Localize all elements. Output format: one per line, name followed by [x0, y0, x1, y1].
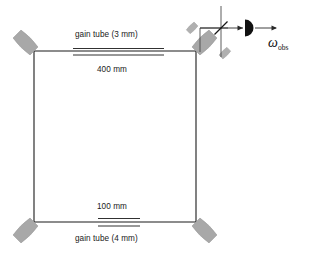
omega-symbol: ω	[268, 35, 278, 50]
mirror-body	[186, 22, 198, 34]
omega-subscript: obs	[278, 43, 289, 52]
gain-tube-top-label: gain tube (3 mm)	[75, 31, 138, 39]
mirror-body	[191, 217, 217, 243]
beam-arrowhead-to-detector	[238, 26, 244, 31]
mirror-top-left	[12, 29, 38, 55]
output-signal-arrowhead	[272, 26, 278, 31]
fold-mirror-upper-left	[186, 22, 198, 34]
mirror-top-right	[191, 29, 217, 55]
gain-tube-bottom-label: gain tube (4 mm)	[75, 235, 138, 243]
mirror-bottom-right	[191, 217, 217, 243]
detection-optics	[186, 6, 277, 59]
bottom-arm-length-label: 100 mm	[97, 203, 127, 211]
mirror-body	[12, 217, 38, 243]
ring-laser-diagram	[0, 0, 309, 261]
corner-mirrors	[12, 29, 217, 243]
photodetector	[245, 20, 253, 37]
mirror-body	[12, 29, 38, 55]
cavity-beam-path	[34, 51, 196, 222]
figure-canvas: gain tube (3 mm) 400 mm 100 mm gain tube…	[0, 0, 309, 261]
omega-obs-label: ωobs	[268, 36, 289, 51]
top-arm-length-label: 400 mm	[97, 66, 127, 74]
gain-tube-top	[73, 49, 164, 56]
mirror-body	[191, 29, 217, 55]
mirror-bottom-left	[12, 217, 38, 243]
